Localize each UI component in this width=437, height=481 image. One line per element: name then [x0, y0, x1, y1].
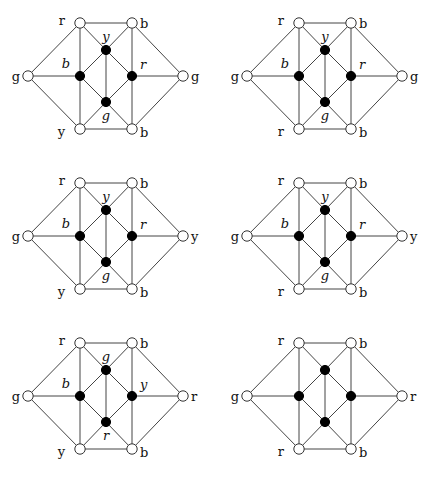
outer-node-label-br: b	[359, 285, 367, 300]
outer-node-l	[23, 231, 33, 241]
inner-node-bottom	[101, 417, 110, 426]
outer-node-label-br: b	[359, 445, 367, 460]
graph-edge	[325, 76, 351, 102]
graph-edge	[28, 23, 80, 76]
inner-node-top	[320, 365, 329, 374]
graph-edge	[325, 210, 351, 236]
inner-node-top	[101, 365, 110, 374]
outer-node-br	[346, 124, 356, 134]
graph-edge	[351, 236, 402, 289]
graph-edge	[247, 23, 299, 76]
graph-edge	[80, 236, 106, 262]
graph-edge	[132, 76, 183, 129]
outer-node-label-l: g	[12, 229, 20, 244]
graph-edge	[106, 396, 132, 422]
graph-edge	[247, 236, 299, 289]
graph-edge	[80, 370, 106, 396]
graph-edge	[299, 236, 325, 262]
inner-node-label-bottom: g	[102, 268, 110, 283]
inner-node-label-left: b	[62, 216, 70, 231]
inner-node-left	[294, 391, 303, 400]
inner-node-bottom	[320, 417, 329, 426]
graph-3: rbgyybybrg	[12, 173, 199, 300]
inner-node-bottom	[101, 257, 110, 266]
inner-node-left	[75, 391, 84, 400]
graph-edge	[28, 343, 80, 396]
outer-node-label-r: r	[191, 389, 198, 404]
outer-node-bl	[294, 124, 304, 134]
outer-node-label-br: b	[140, 125, 148, 140]
outer-node-bl	[294, 444, 304, 454]
inner-node-label-bottom: g	[102, 108, 110, 123]
inner-node-label-left: b	[62, 376, 70, 391]
graph-edge	[351, 396, 402, 449]
outer-node-label-l: g	[12, 69, 20, 84]
outer-node-label-tl: r	[278, 333, 285, 348]
inner-node-right	[127, 71, 136, 80]
graph-edge	[299, 396, 325, 422]
outer-node-label-tl: r	[59, 333, 66, 348]
inner-node-label-right: r	[140, 217, 147, 232]
inner-node-label-top: y	[320, 29, 329, 44]
outer-node-label-tr: b	[140, 16, 148, 31]
outer-node-l	[23, 391, 33, 401]
outer-node-tr	[127, 338, 137, 348]
inner-node-left	[75, 231, 84, 240]
graph-edge	[325, 396, 351, 422]
inner-node-bottom	[320, 257, 329, 266]
outer-node-r	[178, 391, 188, 401]
inner-node-label-right: y	[139, 377, 148, 392]
graph-edge	[247, 76, 299, 129]
graph-edge	[351, 76, 402, 129]
inner-node-right	[127, 231, 136, 240]
outer-node-label-r: g	[410, 69, 418, 84]
outer-node-tr	[127, 178, 137, 188]
inner-node-label-right: r	[140, 57, 147, 72]
outer-node-br	[346, 444, 356, 454]
outer-node-br	[346, 284, 356, 294]
inner-node-label-bottom: r	[103, 428, 110, 443]
graph-edge	[28, 396, 80, 449]
outer-node-label-l: g	[231, 389, 239, 404]
outer-node-tl	[75, 18, 85, 28]
outer-node-label-tr: b	[359, 16, 367, 31]
graph-6: rbgrrb	[231, 333, 417, 460]
outer-node-r	[397, 231, 407, 241]
inner-node-top	[320, 205, 329, 214]
graph-edge	[106, 210, 132, 236]
outer-node-bl	[75, 284, 85, 294]
graph-figure: rbggybybrgrbggrbybrgrbgyybybrgrbgyrbybrg…	[0, 0, 437, 481]
graph-edge	[299, 76, 325, 102]
outer-node-label-bl: y	[57, 284, 66, 299]
outer-node-label-r: g	[191, 69, 199, 84]
inner-node-top	[101, 45, 110, 54]
outer-node-tr	[346, 18, 356, 28]
outer-node-bl	[294, 284, 304, 294]
outer-node-label-r: y	[409, 229, 418, 244]
outer-node-label-tr: b	[140, 176, 148, 191]
graph-edge	[106, 236, 132, 262]
inner-node-left	[75, 71, 84, 80]
graph-edge	[80, 396, 106, 422]
inner-node-top	[320, 45, 329, 54]
outer-node-label-tr: b	[140, 336, 148, 351]
graph-edge	[106, 50, 132, 76]
outer-node-l	[242, 231, 252, 241]
outer-node-l	[242, 391, 252, 401]
outer-node-bl	[75, 124, 85, 134]
outer-node-label-tr: b	[359, 176, 367, 191]
outer-node-tl	[294, 338, 304, 348]
inner-node-label-top: y	[101, 29, 110, 44]
outer-node-label-br: b	[140, 285, 148, 300]
graph-edge	[247, 396, 299, 449]
outer-node-label-l: g	[231, 229, 239, 244]
graph-edge	[247, 183, 299, 236]
inner-node-label-bottom: g	[321, 268, 329, 283]
graph-edge	[325, 236, 351, 262]
outer-node-label-r: y	[190, 229, 199, 244]
outer-node-label-bl: r	[278, 284, 285, 299]
graph-edge	[28, 183, 80, 236]
outer-node-tr	[127, 18, 137, 28]
outer-node-label-l: g	[231, 69, 239, 84]
outer-node-label-l: g	[12, 389, 20, 404]
